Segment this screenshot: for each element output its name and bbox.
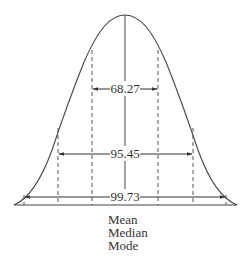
interval-95-label: 95.45 [110, 146, 139, 161]
interval-68-label: 68.27 [110, 81, 140, 96]
interval-99: 99.73 [25, 189, 225, 204]
interval-99-label: 99.73 [110, 189, 139, 204]
interval-68: 68.27 [93, 81, 157, 96]
mode-label: Mode [108, 239, 138, 252]
interval-95: 95.45 [59, 146, 192, 161]
